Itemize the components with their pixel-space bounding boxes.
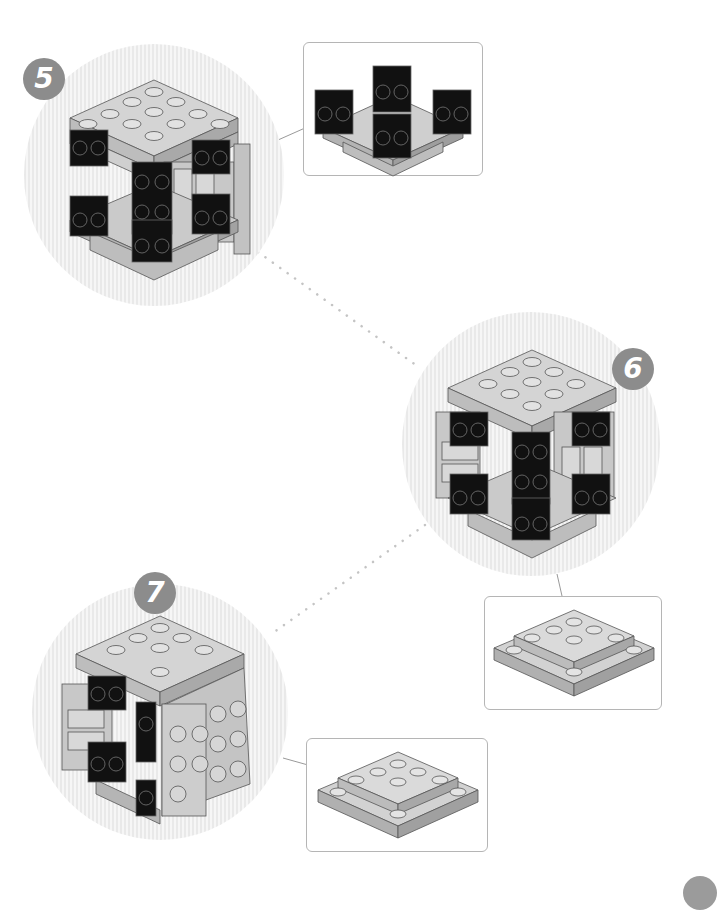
- step-7-model-image: [32, 584, 288, 840]
- page-number-badge: [683, 876, 717, 910]
- step-number-7-badge: 7: [134, 572, 176, 614]
- step-number-5-badge: 5: [23, 58, 65, 100]
- step-7-callout-image: [306, 738, 486, 850]
- step-number-6-badge: 6: [612, 348, 654, 390]
- step-6-callout-image: [484, 596, 660, 708]
- step-5-callout-image: [303, 42, 481, 174]
